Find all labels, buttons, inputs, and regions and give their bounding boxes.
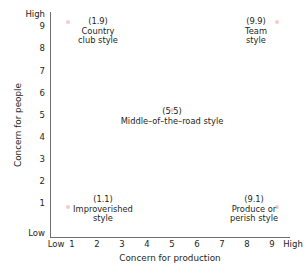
data-point-marker-team [275, 20, 279, 24]
x-tick-7: 7 [219, 240, 224, 249]
y-tick-1: 1 [40, 199, 45, 208]
x-tick-4: 4 [144, 240, 149, 249]
data-point-marker-impoverished [66, 205, 70, 209]
y-tick-low: Low [28, 229, 45, 238]
data-point-name-line2-impoverished: style [73, 214, 133, 224]
data-point-label-produce: (9.1) Produce or perish style [230, 195, 278, 224]
managerial-grid-chart: High 9 8 7 6 5 4 3 2 1 Low Low 1 2 3 4 5… [0, 0, 308, 276]
y-axis-title: Concern for people [12, 12, 24, 238]
x-tick-1: 1 [69, 240, 74, 249]
y-tick-8: 8 [40, 44, 45, 53]
data-point-name-line2-produce: perish style [230, 214, 278, 224]
y-tick-6: 6 [40, 89, 45, 98]
y-tick-high: High [25, 10, 45, 19]
data-point-label-country-club: (1.9) Country club style [78, 17, 118, 46]
x-tick-3: 3 [119, 240, 124, 249]
y-tick-5: 5 [40, 111, 45, 120]
y-tick-9: 9 [40, 22, 45, 31]
y-tick-3: 3 [40, 155, 45, 164]
x-axis-line [50, 237, 290, 238]
x-tick-8: 8 [244, 240, 249, 249]
data-point-name-line1-middle: Middle–of–the–road style [121, 117, 224, 127]
x-tick-high: High [283, 240, 303, 249]
data-point-marker-country-club [66, 20, 70, 24]
x-tick-2: 2 [94, 240, 99, 249]
data-point-name-line2-country-club: club style [78, 36, 118, 46]
y-tick-2: 2 [40, 177, 45, 186]
x-tick-5: 5 [169, 240, 174, 249]
data-point-label-team: (9.9) Team style [245, 17, 267, 46]
y-tick-4: 4 [40, 133, 45, 142]
x-tick-9: 9 [269, 240, 274, 249]
data-point-label-middle: (5.5) Middle–of–the–road style [121, 107, 224, 126]
x-axis-title: Concern for production [50, 253, 290, 263]
x-tick-6: 6 [194, 240, 199, 249]
data-point-name-line2-team: style [245, 36, 267, 46]
y-axis-line [50, 12, 51, 238]
x-tick-low: Low [48, 240, 65, 249]
y-tick-7: 7 [40, 67, 45, 76]
data-point-label-impoverished: (1.1) Improverished style [73, 195, 133, 224]
